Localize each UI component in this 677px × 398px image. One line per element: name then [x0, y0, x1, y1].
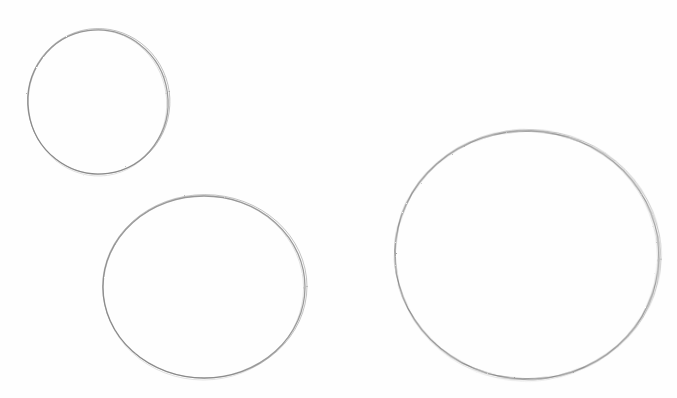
large-circle: [390, 125, 665, 386]
sketch-canvas: [0, 0, 677, 398]
small-circle: [18, 19, 180, 185]
sketch-drawing: [0, 0, 677, 398]
medium-circle: [103, 195, 307, 380]
